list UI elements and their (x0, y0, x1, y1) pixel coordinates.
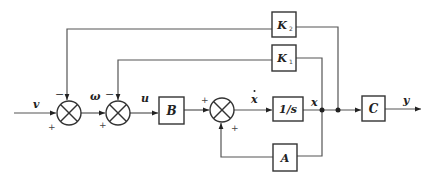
signal-v-label: v (33, 98, 40, 111)
sum3-left-sign: + (201, 95, 209, 105)
signal-xdot-label: x (250, 93, 258, 106)
sum1-top-sign: − (55, 88, 64, 101)
summing-junction-1 (57, 101, 81, 125)
block-K1-label: K (276, 52, 287, 65)
signal-y-label: y (402, 94, 411, 107)
sum2-left-sign: + (99, 120, 107, 130)
sum1-left-sign: + (48, 122, 56, 132)
sum2-top-sign: − (105, 88, 114, 101)
a-feedback-path-left (221, 123, 273, 157)
signal-x-label: x (310, 96, 318, 109)
signal-omega-label: ω (90, 90, 101, 103)
block-C-label: C (369, 102, 379, 116)
xdot-dot (254, 90, 256, 92)
branch-node-2 (336, 108, 341, 113)
sum3-bottom-sign: + (231, 123, 239, 133)
block-K1-subscript: 1 (289, 58, 293, 65)
block-diagram: B 1/s C A K 2 K 1 v ω u x x y − + − + + … (0, 0, 431, 182)
block-K2-label: K (276, 19, 287, 32)
block-A-label: A (280, 152, 290, 165)
summing-junction-2 (106, 101, 130, 125)
branch-node-1 (320, 108, 325, 113)
block-integrator-label: 1/s (279, 103, 297, 116)
block-K2-subscript: 2 (289, 25, 293, 32)
summing-junction-3 (210, 98, 234, 122)
block-B-label: B (165, 104, 176, 118)
signal-u-label: u (141, 92, 149, 105)
